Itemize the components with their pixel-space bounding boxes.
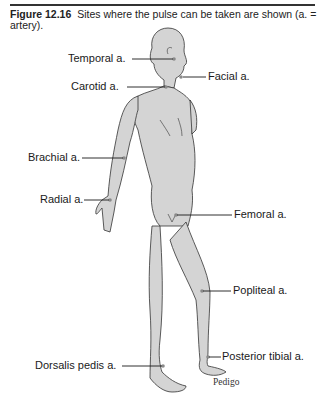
label-posterior-tibial-artery: Posterior tibial a. <box>222 350 304 362</box>
label-popliteal-artery: Popliteal a. <box>233 284 287 296</box>
label-temporal-artery: Temporal a. <box>68 52 125 64</box>
illustrator-credit: Pedigo <box>213 377 239 387</box>
label-brachial-artery: Brachial a. <box>28 151 80 163</box>
label-facial-artery: Facial a. <box>208 70 250 82</box>
label-dorsalis-pedis-artery: Dorsalis pedis a. <box>35 359 116 371</box>
label-femoral-artery: Femoral a. <box>234 208 287 220</box>
label-radial-artery: Radial a. <box>40 193 83 205</box>
label-carotid-artery: Carotid a. <box>71 80 119 92</box>
